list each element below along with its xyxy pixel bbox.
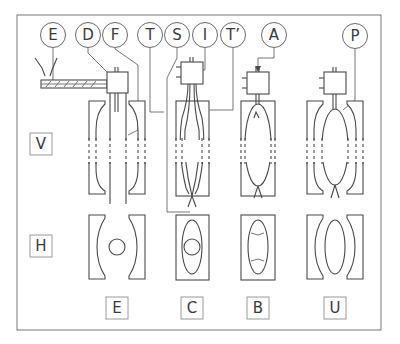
callout-F: F [103, 23, 128, 48]
stage-U-vertical [304, 67, 366, 198]
stage-B-horizontal [241, 215, 275, 280]
stage-U-horizontal [307, 215, 363, 279]
extruder [35, 58, 128, 93]
stage-label-text: U [330, 299, 341, 317]
stage-C-vertical [174, 57, 211, 207]
callout-label: F [111, 26, 120, 44]
stage-C-horizontal [176, 215, 209, 280]
stage-label-text: E [112, 299, 121, 317]
row-label-V: V [30, 133, 52, 155]
callout-I: I [193, 23, 218, 48]
row-label-text: V [36, 135, 47, 153]
row-label-text: H [35, 237, 46, 255]
callout-D: D [76, 23, 101, 48]
hopper-icon [35, 58, 45, 76]
callout-label: T’ [225, 26, 240, 44]
blow-head [324, 72, 346, 94]
callout-T-prime: T’ [221, 23, 246, 48]
stage-label-U: U [324, 297, 346, 319]
stage-E-horizontal [89, 215, 145, 279]
callout-label: E [48, 26, 57, 44]
callout-A: A [262, 23, 287, 48]
callout-T: T [138, 23, 163, 48]
stage-E-vertical [86, 93, 150, 204]
callout-label: I [203, 26, 207, 44]
stage-label-E: E [106, 297, 128, 319]
callout-label: D [82, 26, 94, 44]
stage-label-text: B [253, 299, 263, 317]
stage-B-vertical [239, 67, 277, 198]
row-label-H: H [30, 235, 52, 257]
blow-molding-process-diagram: E D F T S I T’ A P [0, 0, 400, 344]
callout-S: S [165, 23, 190, 48]
callout-label: S [172, 26, 182, 44]
blow-head [247, 72, 269, 94]
stage-label-text: C [187, 299, 197, 317]
parison-section [109, 239, 125, 255]
callout-label: A [269, 26, 280, 44]
callout-E: E [41, 23, 66, 48]
callout-label: T [144, 26, 155, 44]
callout-label: P [350, 27, 359, 45]
stage-label-B: B [247, 297, 269, 319]
die-head [107, 72, 128, 93]
callout-P: P [343, 24, 368, 49]
blow-head [181, 62, 203, 84]
stage-label-C: C [181, 297, 203, 319]
